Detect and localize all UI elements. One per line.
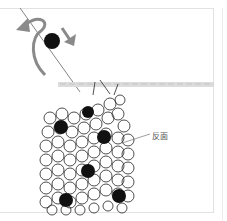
reverse-side-label: 反面 xyxy=(152,130,168,141)
bobble-stitch xyxy=(44,33,60,49)
crochet-hook-icon xyxy=(58,82,214,87)
label-leader-line xyxy=(122,134,150,143)
curved-arrow-icon xyxy=(16,18,45,75)
down-arrow-icon xyxy=(62,28,76,46)
knitting-illustration xyxy=(0,0,227,221)
